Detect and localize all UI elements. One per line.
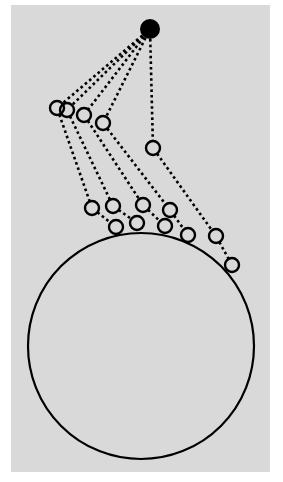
particle-node <box>130 216 144 230</box>
particle-node <box>209 229 223 243</box>
particle-node <box>181 228 195 242</box>
particle-node <box>163 203 177 217</box>
dotted-path-segment <box>119 210 132 219</box>
particle-nodes <box>50 101 239 272</box>
dotted-path-segment <box>107 129 165 205</box>
dotted-path-segment <box>72 36 143 105</box>
particle-node <box>146 141 160 155</box>
source-dot <box>140 19 160 39</box>
particle-node <box>136 198 150 212</box>
particle-node <box>96 116 110 130</box>
trajectory-diagram <box>0 0 283 482</box>
dotted-path-segment <box>150 39 153 141</box>
particle-node <box>225 258 239 272</box>
dotted-path-segment <box>174 216 184 230</box>
particle-node <box>85 201 99 215</box>
main-shapes <box>28 19 254 459</box>
particle-node <box>77 108 91 122</box>
dotted-path-segment <box>97 212 110 222</box>
particle-node <box>109 220 123 234</box>
particle-node <box>60 103 74 117</box>
dotted-path-segment <box>148 210 160 221</box>
particle-node <box>158 219 172 233</box>
particle-node <box>106 199 120 213</box>
dotted-path-segment <box>219 242 228 259</box>
large-sphere <box>28 233 254 459</box>
